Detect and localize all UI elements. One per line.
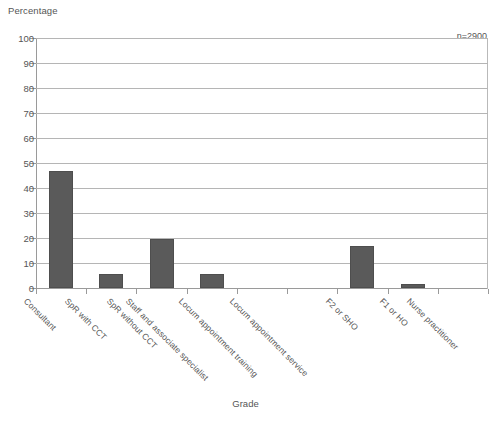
x-tick-mark [187,289,188,294]
bar [401,284,425,288]
x-tick-mark [488,289,489,294]
x-axis-title-text: Grade [232,398,258,409]
x-tick-mark [86,289,87,294]
x-tick-label: SpR with CCT [63,296,109,342]
bar [350,246,374,289]
bar-chart: Percentage n=2900 0102030405060708090100… [0,0,499,425]
x-tick-mark [337,289,338,294]
x-tick-mark [287,289,288,294]
x-tick-mark [36,289,37,294]
x-tick-mark [388,289,389,294]
y-tick-label: 90 [4,58,34,69]
x-tick-label: Consultant [22,296,59,333]
y-axis-title: Percentage [8,5,58,16]
bar [49,171,73,289]
y-tick-label: 70 [4,108,34,119]
y-tick-label: 40 [4,183,34,194]
bar [150,239,174,288]
y-tick-label: 60 [4,133,34,144]
x-tick-label: Nurse practitioner [405,296,461,352]
y-tick-label: 30 [4,208,34,219]
x-tick-mark [237,289,238,294]
y-tick-label: 50 [4,158,34,169]
bar [99,274,123,288]
x-tick-label: F2 or SHO [324,296,360,332]
x-tick-mark [136,289,137,294]
y-tick-label: 10 [4,258,34,269]
plot-area [36,38,488,288]
y-tick-label: 80 [4,83,34,94]
y-tick-label: 100 [4,33,34,44]
y-tick-label: 20 [4,233,34,244]
bar [200,274,224,288]
y-tick-label: 0 [4,283,34,294]
x-tick-mark [438,289,439,294]
x-axis-title: Grade [0,398,499,409]
x-axis-line [36,288,488,289]
